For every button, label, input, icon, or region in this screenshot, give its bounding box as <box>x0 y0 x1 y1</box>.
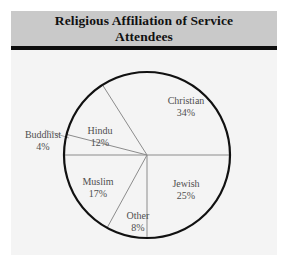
divider-241deg <box>107 155 147 228</box>
pie-chart-panel: Christian 34% Hindu 12% Buddhist 4% Musl… <box>11 50 277 255</box>
chart-page: Religious Affiliation of Service Attende… <box>0 0 290 272</box>
divider-122deg <box>103 85 148 155</box>
chart-title-band: Religious Affiliation of Service Attende… <box>11 11 277 46</box>
divider-166deg <box>67 134 147 155</box>
pie-chart-graphic <box>11 50 277 255</box>
page-title: Religious Affiliation of Service Attende… <box>37 13 251 44</box>
